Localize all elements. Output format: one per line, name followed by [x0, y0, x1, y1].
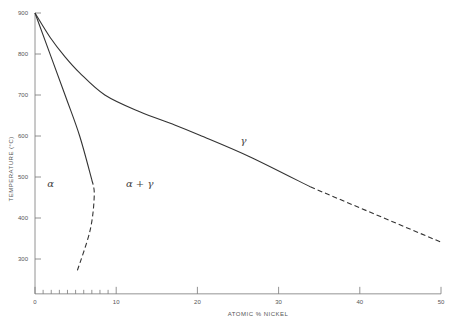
y-tick-label: 300: [18, 256, 29, 262]
y-axis-title: TEMPERATURE (°C): [8, 136, 14, 201]
x-tick-label: 10: [113, 299, 120, 305]
labels: αα + γγATOMIC % NICKELTEMPERATURE (°C): [8, 135, 288, 317]
y-tick-label: 600: [18, 133, 29, 139]
x-tick-label: 50: [438, 299, 445, 305]
gamma-boundary-dashed: [310, 187, 441, 242]
ticks: 30040050060070080090001020304050: [18, 10, 445, 305]
y-tick-label: 700: [18, 92, 29, 98]
y-tick-label: 400: [18, 215, 29, 221]
y-tick-label: 900: [18, 10, 29, 16]
x-tick-label: 30: [275, 299, 282, 305]
phase-diagram: 30040050060070080090001020304050 αα + γγ…: [0, 0, 452, 322]
y-tick-label: 500: [18, 174, 29, 180]
axes: [35, 13, 441, 294]
x-tick-label: 20: [194, 299, 201, 305]
region-label: γ: [240, 135, 246, 146]
region-label: α + γ: [126, 178, 153, 189]
x-axis-title: ATOMIC % NICKEL: [228, 311, 289, 317]
alpha-boundary-solid: [35, 13, 92, 180]
x-tick-label: 0: [33, 299, 37, 305]
phase-boundaries: [35, 13, 441, 271]
x-tick-label: 40: [356, 299, 363, 305]
gamma-boundary-solid: [35, 13, 310, 187]
y-tick-label: 800: [18, 51, 29, 57]
region-label: α: [47, 178, 54, 189]
alpha-boundary-dashed: [77, 180, 94, 271]
